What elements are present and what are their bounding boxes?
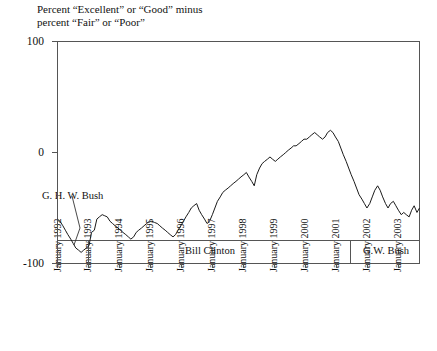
plot-frame: [58, 42, 420, 264]
annotation-leader-line: [72, 196, 80, 245]
chart-figure: Percent “Excellent” or “Good” minus perc…: [0, 0, 437, 351]
xtick-marks: [58, 264, 399, 269]
president-band-box: [58, 241, 420, 264]
series-line-net-positive-rating: [58, 130, 420, 252]
chart-plot-svg: [0, 0, 437, 351]
